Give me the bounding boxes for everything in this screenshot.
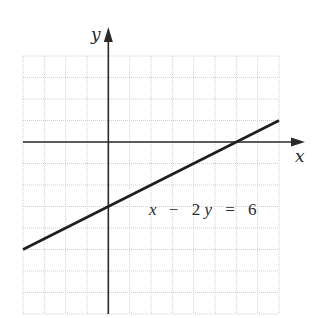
- eq-x: x: [148, 200, 157, 219]
- eq-y: y: [202, 200, 212, 219]
- eq-two: 2: [192, 200, 201, 219]
- y-axis-label: y: [90, 24, 101, 44]
- eq-equals: =: [225, 200, 235, 219]
- eq-six: 6: [248, 200, 257, 219]
- y-axis-arrow-icon: [104, 27, 113, 42]
- chart: x y x − 2 y = 6: [0, 0, 314, 318]
- svg-text:x − 2 y: x − 2 y = 6: [148, 200, 257, 219]
- x-axis-label: x: [295, 146, 305, 166]
- equation-label: x − 2 y = 6: [148, 200, 257, 219]
- eq-minus: −: [169, 200, 179, 219]
